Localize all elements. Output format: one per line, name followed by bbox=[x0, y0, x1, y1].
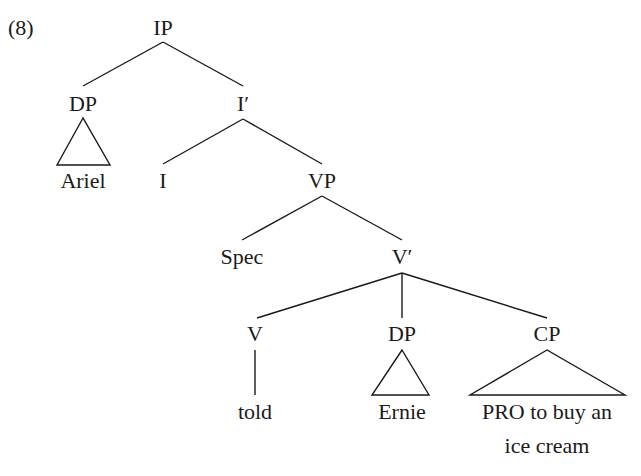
node-v-head: V bbox=[247, 321, 263, 346]
syntax-tree: (8) IP DP Ariel I′ I VP Spec V′ V told D… bbox=[0, 0, 641, 476]
node-cp: CP bbox=[534, 321, 561, 346]
branch-vbar-v bbox=[257, 273, 402, 318]
node-dp-object: DP bbox=[388, 321, 416, 346]
branch-ip-dp bbox=[83, 42, 163, 86]
branch-ip-ibar bbox=[163, 42, 243, 86]
branch-ibar-vp bbox=[243, 119, 322, 164]
node-vp: VP bbox=[308, 168, 336, 193]
leaf-told: told bbox=[238, 399, 272, 424]
example-number: (8) bbox=[8, 15, 34, 40]
node-spec: Spec bbox=[221, 244, 264, 269]
branch-vp-spec bbox=[242, 196, 322, 240]
leaf-ariel: Ariel bbox=[60, 168, 105, 193]
leaf-ernie: Ernie bbox=[378, 399, 426, 424]
triangle-cp bbox=[470, 350, 625, 395]
node-i-head: I bbox=[159, 168, 166, 193]
leaf-cp-line2: ice cream bbox=[505, 433, 590, 458]
leaf-cp-line1: PRO to buy an bbox=[482, 399, 612, 424]
node-dp-subject: DP bbox=[69, 91, 97, 116]
triangle-dp-object bbox=[372, 350, 429, 395]
node-v-bar: V′ bbox=[392, 244, 413, 269]
node-i-bar: I′ bbox=[237, 91, 249, 116]
node-ip: IP bbox=[153, 15, 173, 40]
branch-vp-vbar bbox=[322, 196, 402, 240]
branch-vbar-cp bbox=[402, 273, 547, 318]
triangle-dp-subject bbox=[57, 118, 110, 165]
branch-ibar-i bbox=[163, 119, 243, 164]
